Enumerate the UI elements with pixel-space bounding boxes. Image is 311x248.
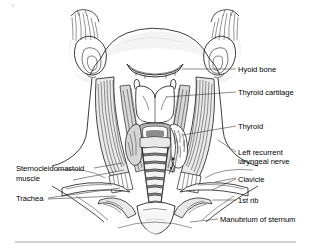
label-first-rib: 1st rib	[238, 196, 258, 205]
leader-clavicle-a	[215, 178, 236, 182]
label-left-recurrent-laryngeal-nerve-line1: Left recurrent	[238, 148, 283, 157]
anatomy-figure: Hyoid bone Thyroid cartilage Thyroid Lef…	[0, 0, 311, 248]
hyoid-bone-structure	[127, 64, 183, 79]
manubrium-of-sternum-structure	[137, 202, 175, 234]
label-manubrium-of-sternum: Manubrium of sternum	[220, 215, 295, 224]
label-left-recurrent-laryngeal-nerve-line2: laryngeal nerve	[238, 157, 289, 166]
thyroid-cartilage-structure	[134, 79, 176, 126]
label-sternocleidomastoid-muscle-line2: muscle	[16, 174, 40, 183]
scan-artifact	[11, 4, 15, 8]
anatomy-illustration	[0, 0, 311, 248]
label-thyroid: Thyroid	[238, 122, 263, 131]
left-ear-and-hair	[69, 10, 106, 83]
label-clavicle: Clavicle	[238, 175, 264, 184]
label-hyoid-bone: Hyoid bone	[238, 65, 276, 74]
label-sternocleidomastoid-muscle-line1: Sternocleidomastoid	[16, 164, 84, 173]
label-thyroid-cartilage: Thyroid cartilage	[238, 88, 294, 97]
head-outline	[90, 28, 220, 75]
trachea-structure	[142, 147, 168, 203]
leader-left-recurrent-laryngeal-nerve	[218, 140, 236, 152]
label-trachea: Trachea	[16, 194, 43, 203]
right-ear-and-hair	[204, 10, 241, 83]
leader-manubrium-of-sternum	[190, 219, 218, 222]
